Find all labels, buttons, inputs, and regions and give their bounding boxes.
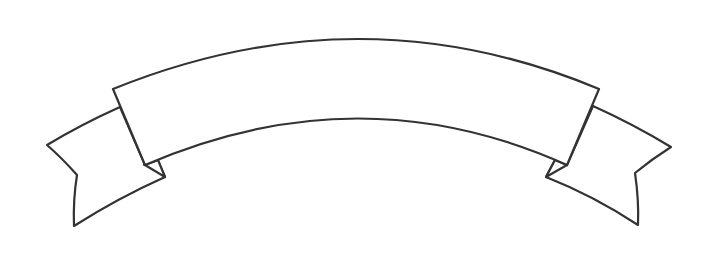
main-ribbon-band	[113, 39, 599, 165]
ribbon-banner	[0, 0, 717, 264]
